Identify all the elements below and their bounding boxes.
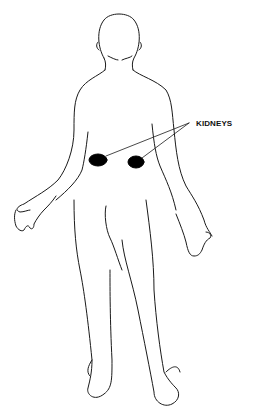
ears xyxy=(97,42,142,50)
left-leg-outer xyxy=(74,200,112,397)
right-kidney xyxy=(128,156,144,168)
torso-left xyxy=(17,70,105,212)
kidneys-label: KIDNEYS xyxy=(196,119,232,128)
leader-line-right xyxy=(142,123,189,158)
crotch xyxy=(105,206,122,270)
right-arm-inner xyxy=(152,124,176,210)
feet-toes xyxy=(88,360,180,376)
neck-lines xyxy=(108,56,132,60)
head-outline xyxy=(99,14,140,70)
torso-right xyxy=(133,70,212,236)
right-leg-outer xyxy=(122,200,179,405)
body-diagram xyxy=(0,0,253,414)
left-hand xyxy=(15,196,57,231)
left-kidney xyxy=(89,154,107,166)
left-arm-inner xyxy=(56,132,88,200)
right-hand xyxy=(176,214,211,256)
